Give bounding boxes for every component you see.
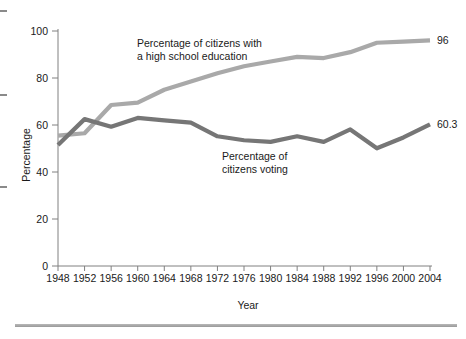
x-tick-label: 1960 <box>126 272 150 284</box>
annotation-line: citizens voting <box>222 163 288 175</box>
y-axis-title: Percentage <box>20 128 32 182</box>
x-tick-label: 1948 <box>46 272 70 284</box>
y-tick-label: 20 <box>36 213 48 225</box>
y-tick-label: 100 <box>30 25 48 37</box>
x-tick-label: 1988 <box>312 272 336 284</box>
series-end-labels: 9660.3 <box>437 34 458 130</box>
y-tick-label: 60 <box>36 119 48 131</box>
y-axis-tick-labels: 100 80 60 40 20 0 <box>30 25 48 272</box>
x-axis-ticks <box>58 266 430 271</box>
footer-rule <box>15 324 457 327</box>
chart-figure: 100 80 60 40 20 0 1948195219561960196419… <box>0 0 466 339</box>
annotation-line: Percentage of citizens with <box>137 37 262 49</box>
voting-end-label: 60.3 <box>437 118 458 130</box>
line-chart: 100 80 60 40 20 0 1948195219561960196419… <box>0 0 466 318</box>
x-axis-title: Year <box>237 299 259 311</box>
page-edge-mark-top <box>0 10 7 12</box>
x-tick-label: 1976 <box>232 272 256 284</box>
x-tick-label: 1996 <box>365 272 389 284</box>
x-tick-label: 1992 <box>339 272 363 284</box>
x-axis-tick-labels: 1948195219561960196419681972197619801984… <box>46 272 442 284</box>
x-tick-label: 1980 <box>259 272 283 284</box>
page-edge-mark-middle <box>0 94 7 96</box>
x-tick-label: 1952 <box>73 272 97 284</box>
education-annotation: Percentage of citizens witha high school… <box>137 37 262 62</box>
y-tick-label: 40 <box>36 166 48 178</box>
education-end-label: 96 <box>437 34 449 46</box>
x-tick-label: 1956 <box>99 272 123 284</box>
x-tick-label: 1972 <box>206 272 230 284</box>
x-tick-label: 1964 <box>153 272 177 284</box>
x-tick-label: 2004 <box>418 272 442 284</box>
series-line-voting <box>58 118 430 148</box>
x-tick-label: 1984 <box>285 272 309 284</box>
x-tick-label: 1968 <box>179 272 203 284</box>
chart-annotations: Percentage of citizens witha high school… <box>137 37 288 175</box>
page-edge-mark-lower <box>0 186 7 188</box>
y-tick-label: 0 <box>42 260 48 272</box>
y-tick-label: 80 <box>36 72 48 84</box>
voting-annotation: Percentage ofcitizens voting <box>222 150 288 175</box>
annotation-line: Percentage of <box>222 150 287 162</box>
annotation-line: a high school education <box>137 50 247 62</box>
x-tick-label: 2000 <box>392 272 416 284</box>
y-axis-ticks <box>52 31 58 266</box>
